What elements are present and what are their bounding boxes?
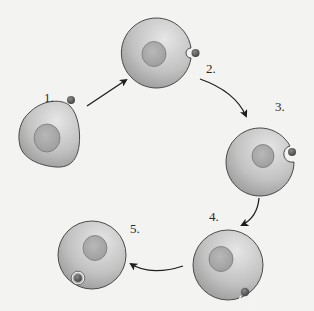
arrow-3-to-4 [242, 198, 259, 225]
nucleus-3 [252, 145, 274, 168]
nucleus-2 [142, 42, 166, 67]
endocytosis-cycle-diagram: 1. 2. 3. 4. 5. [0, 0, 314, 311]
particle-4 [241, 288, 249, 296]
particle-5 [74, 274, 82, 282]
step-3: 3. [226, 99, 296, 196]
step-label-5: 5. [130, 221, 140, 236]
step-1: 1. [19, 90, 80, 167]
step-label-1: 1. [44, 90, 54, 105]
particle-2 [192, 49, 200, 57]
diagram-canvas: 1. 2. 3. 4. 5. [0, 0, 314, 311]
step-label-3: 3. [275, 99, 285, 114]
arrow-2-to-3 [200, 79, 246, 116]
arrow-1-to-2 [87, 80, 126, 106]
step-label-4: 4. [209, 209, 219, 224]
nucleus-4 [209, 247, 233, 272]
arrow-4-to-5 [131, 264, 183, 271]
particle-1 [67, 96, 75, 104]
step-4: 4. [193, 209, 263, 306]
particle-3 [288, 148, 296, 156]
step-5: 5. [58, 221, 140, 289]
nucleus-1 [34, 124, 60, 152]
step-label-2: 2. [206, 61, 216, 76]
nucleus-5 [83, 236, 107, 261]
step-2: 2. [121, 18, 215, 88]
